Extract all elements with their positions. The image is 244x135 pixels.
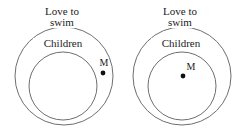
point-m-dot	[181, 74, 186, 79]
inner-set-label: Children	[33, 38, 93, 49]
inner-set-label: Children	[151, 38, 211, 49]
inner-circle-children	[148, 52, 216, 120]
point-m-dot	[101, 71, 106, 76]
outer-set-label: Love to swim	[31, 6, 93, 28]
outer-set-label-line2: swim	[150, 17, 210, 28]
outer-set-label-line2: swim	[32, 17, 92, 28]
point-m-label: M	[185, 62, 197, 72]
diagram-left: Love to swim Children M	[0, 0, 122, 135]
point-m-label: M	[98, 58, 110, 68]
outer-set-label: Love to swim	[149, 6, 211, 28]
inner-circle-children	[29, 52, 97, 120]
venn-diagram-figure: Love to swim Children M Love to swim Chi…	[0, 0, 244, 135]
diagram-right: Love to swim Children M	[122, 0, 244, 135]
